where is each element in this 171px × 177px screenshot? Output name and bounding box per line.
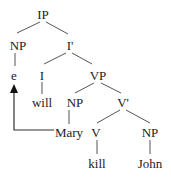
node-ip: IP	[37, 8, 49, 21]
branch-line	[17, 22, 40, 33]
node-np-object: NP	[142, 126, 159, 139]
node-will: will	[32, 96, 52, 109]
branch-line	[101, 83, 121, 93]
node-vp: VP	[90, 69, 107, 82]
tree-edges	[0, 0, 171, 177]
node-np-subject: NP	[10, 39, 27, 52]
arrowhead-icon	[10, 84, 18, 93]
node-v: V	[91, 126, 100, 139]
syntax-tree-diagram: IP NP I' e I VP will NP V' Mary V NP kil…	[0, 0, 171, 177]
node-e-trace: e	[11, 69, 17, 82]
branch-line	[75, 83, 94, 93]
branch-line	[72, 53, 92, 64]
branch-line	[46, 22, 68, 34]
node-john: John	[138, 157, 163, 170]
node-i: I	[40, 69, 44, 82]
node-i-bar: I'	[67, 39, 74, 52]
node-kill: kill	[88, 157, 105, 170]
branch-line	[44, 53, 66, 64]
branch-line	[97, 110, 120, 123]
branch-line	[126, 110, 150, 123]
node-np-mary: NP	[67, 96, 84, 109]
node-mary: Mary	[55, 126, 83, 139]
node-v-bar: V'	[117, 96, 129, 109]
